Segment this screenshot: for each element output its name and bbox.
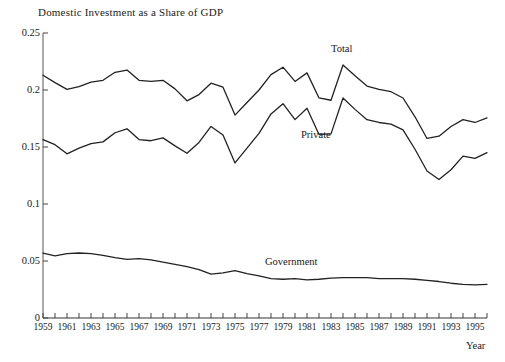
x-axis-tick-label: 1979 bbox=[274, 322, 293, 332]
x-axis-tick-label: 1983 bbox=[322, 322, 341, 332]
x-axis-tick-label: 1965 bbox=[106, 322, 125, 332]
x-axis-tick-label: 1981 bbox=[298, 322, 317, 332]
x-axis-tick-label: 1991 bbox=[418, 322, 437, 332]
x-axis-tick-label: 1977 bbox=[250, 322, 269, 332]
x-axis-tick-label: 1987 bbox=[370, 322, 389, 332]
series-label-government: Government bbox=[265, 256, 318, 267]
chart-figure: Domestic Investment as a Share of GDP 00… bbox=[0, 0, 505, 362]
x-axis-tick-label: 1975 bbox=[226, 322, 245, 332]
x-axis-tick-label: 1973 bbox=[202, 322, 221, 332]
x-axis-tick-label: 1969 bbox=[154, 322, 173, 332]
x-axis-tick-label: 1959 bbox=[34, 322, 53, 332]
x-axis-tick-label: 1993 bbox=[442, 322, 461, 332]
x-axis-tick-label: 1971 bbox=[178, 322, 197, 332]
series-label-total: Total bbox=[331, 43, 352, 54]
x-axis-tick-labels: 1959196119631965196719691971197319751977… bbox=[0, 0, 505, 362]
x-axis-tick-label: 1995 bbox=[466, 322, 485, 332]
x-axis-tick-label: 1963 bbox=[82, 322, 101, 332]
x-axis-tick-label: 1961 bbox=[58, 322, 77, 332]
series-label-private: Private bbox=[301, 129, 331, 140]
x-axis-tick-label: 1985 bbox=[346, 322, 365, 332]
x-axis-tick-label: 1989 bbox=[394, 322, 413, 332]
x-axis-tick-label: 1967 bbox=[130, 322, 149, 332]
x-axis-title: Year bbox=[466, 340, 485, 351]
